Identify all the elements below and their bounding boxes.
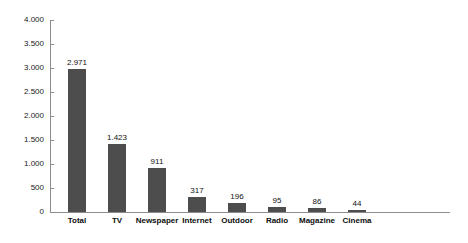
- bar-value-label: 2.971: [49, 58, 105, 67]
- bar[interactable]: [268, 207, 286, 212]
- bar[interactable]: [348, 210, 366, 212]
- bar[interactable]: [68, 69, 86, 212]
- bar-group[interactable]: [329, 210, 385, 212]
- bar-value-label: 911: [129, 157, 185, 166]
- bar-value-label: 1.423: [89, 133, 145, 142]
- bar[interactable]: [108, 144, 126, 212]
- bars-layer: 2.971Total1.423TV911Newspaper317Internet…: [0, 0, 468, 243]
- bar-value-label: 44: [329, 199, 385, 208]
- bar[interactable]: [228, 203, 246, 212]
- bar-chart: 05001.0001.5002.0002.5003.0003.5004.000 …: [0, 0, 468, 243]
- bar[interactable]: [188, 197, 206, 212]
- bar[interactable]: [148, 168, 166, 212]
- bar[interactable]: [308, 208, 326, 212]
- x-axis-category-label: Cinema: [329, 216, 385, 225]
